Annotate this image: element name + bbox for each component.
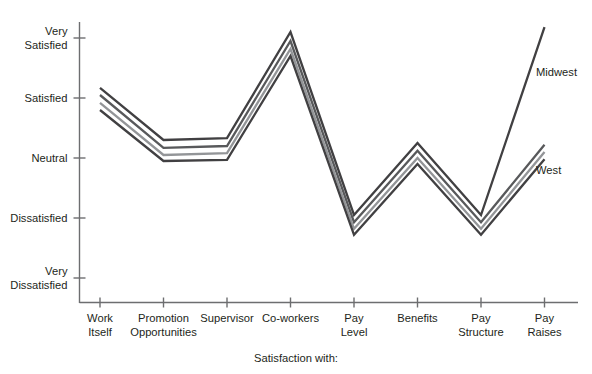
- x-axis-tick-label: PromotionOpportunities: [130, 312, 197, 338]
- x-axis-tick-label: Co-workers: [262, 312, 320, 324]
- x-axis-tick-label: PayLevel: [341, 312, 368, 338]
- series-lines: [100, 27, 545, 235]
- x-axis-tick-label: PayRaises: [527, 312, 562, 338]
- x-axis-tick-label: PayStructure: [458, 312, 503, 338]
- y-axis: VerySatisfiedSatisfiedNeutralDissatisfie…: [10, 22, 85, 303]
- y-axis-tick-label: VeryDissatisfied: [10, 265, 68, 291]
- y-axis-tick-label: Neutral: [31, 152, 67, 164]
- y-axis-tick-label: VerySatisfied: [25, 25, 68, 51]
- y-axis-tick-label: Satisfied: [25, 92, 68, 104]
- series-line-series-2: [100, 41, 545, 222]
- satisfaction-line-chart: VerySatisfiedSatisfiedNeutralDissatisfie…: [0, 0, 592, 374]
- series-annotations: MidwestWest: [536, 66, 578, 176]
- series-label-midwest: Midwest: [536, 66, 578, 78]
- series-line-midwest: [100, 27, 545, 215]
- x-axis: WorkItselfPromotionOpportunitiesSupervis…: [80, 298, 579, 338]
- x-axis-tick-label: Supervisor: [200, 312, 254, 324]
- x-axis-tick-label: Benefits: [397, 312, 438, 324]
- y-axis-tick-label: Dissatisfied: [10, 212, 67, 224]
- x-axis-title: Satisfaction with:: [254, 352, 338, 364]
- x-axis-tick-labels: WorkItselfPromotionOpportunitiesSupervis…: [87, 312, 562, 338]
- x-axis-tick-label: WorkItself: [87, 312, 113, 338]
- series-label-west: West: [536, 164, 562, 176]
- series-line-west: [100, 56, 545, 235]
- y-axis-tick-labels: VerySatisfiedSatisfiedNeutralDissatisfie…: [10, 25, 68, 291]
- chart-canvas: VerySatisfiedSatisfiedNeutralDissatisfie…: [0, 0, 592, 374]
